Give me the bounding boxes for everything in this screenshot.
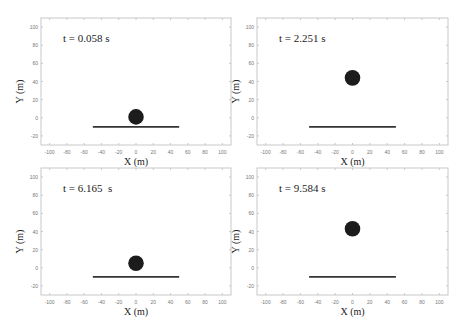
x-tick-label: -40 <box>314 299 321 305</box>
y-tick-label: 100 <box>246 174 255 180</box>
x-tick-label: 100 <box>435 299 444 305</box>
x-tick-label: -100 <box>261 299 271 305</box>
panel-time-label: t = 9.584 s <box>279 182 326 194</box>
x-tick-label: 20 <box>367 299 373 305</box>
ball <box>345 221 361 237</box>
y-axis-label: Y (m) <box>230 230 242 254</box>
y-tick-label: 40 <box>248 229 254 235</box>
y-tick-label: 60 <box>248 210 254 216</box>
x-tick-label: 40 <box>384 299 390 305</box>
x-tick-label: -60 <box>297 299 304 305</box>
x-tick-label: 60 <box>402 299 408 305</box>
y-tick-label: 20 <box>248 247 254 253</box>
y-tick-label: -20 <box>247 283 254 289</box>
subplot-4: -100-80-60-40-20020406080100-20020406080… <box>0 0 469 329</box>
x-tick-label: -20 <box>332 299 339 305</box>
x-axis-label: X (m) <box>340 306 364 318</box>
x-tick-label: -80 <box>279 299 286 305</box>
y-tick-label: 80 <box>248 192 254 198</box>
x-tick-label: 80 <box>419 299 425 305</box>
y-tick-label: 0 <box>251 265 254 271</box>
x-tick-label: 0 <box>351 299 354 305</box>
